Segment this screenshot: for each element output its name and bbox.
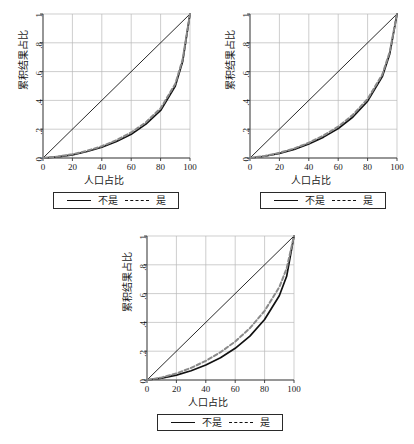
legend: 不是是: [157, 414, 283, 431]
legend-dashed-line-icon: [332, 200, 356, 201]
legend-label-solid: 不是: [202, 418, 222, 428]
plot-svg: [207, 0, 414, 222]
x-tick-label: 40: [296, 162, 322, 172]
x-tick-label: 0: [30, 162, 56, 172]
x-tick-label: 40: [89, 162, 115, 172]
x-tick-label: 40: [193, 384, 219, 394]
x-axis-title: 人口占比: [207, 172, 414, 187]
legend-dashed-line-icon: [125, 200, 149, 201]
y-tick-label: 1: [138, 235, 148, 253]
y-tick-label: .2: [138, 350, 148, 368]
y-tick-label: 1: [34, 13, 44, 31]
lorenz-panel-3: 0.2.4.6.81020406080100累积结果占比人口占比不是是: [104, 222, 311, 444]
legend-solid-line-icon: [67, 200, 91, 201]
y-tick-label: 1: [241, 13, 251, 31]
lorenz-panel-2: 0.2.4.6.81020406080100累积结果占比人口占比不是是: [207, 0, 414, 222]
legend-solid-line-icon: [171, 422, 195, 423]
y-tick-label: .4: [241, 99, 251, 117]
plot-area: 0.2.4.6.81020406080100累积结果占比人口占比不是是: [207, 0, 414, 222]
x-axis-title: 人口占比: [104, 394, 311, 409]
y-tick-label: .6: [34, 71, 44, 89]
legend: 不是是: [260, 192, 386, 209]
y-tick-label: .8: [241, 42, 251, 60]
x-tick-label: 100: [281, 384, 307, 394]
y-axis-title: 累积结果占比: [222, 5, 237, 115]
y-tick-label: .2: [241, 128, 251, 146]
x-tick-label: 80: [252, 384, 278, 394]
x-tick-label: 100: [177, 162, 203, 172]
legend-label-solid: 不是: [98, 196, 118, 206]
y-tick-label: .8: [34, 42, 44, 60]
plot-area: 0.2.4.6.81020406080100累积结果占比人口占比不是是: [0, 0, 207, 222]
x-tick-label: 60: [325, 162, 351, 172]
x-axis-title: 人口占比: [0, 172, 207, 187]
lorenz-panel-1: 0.2.4.6.81020406080100累积结果占比人口占比不是是: [0, 0, 207, 222]
legend-dashed-line-icon: [229, 422, 253, 423]
legend-label-dashed: 是: [363, 196, 373, 206]
x-tick-label: 80: [355, 162, 381, 172]
series-equality-line: [43, 14, 190, 158]
legend-label-solid: 不是: [305, 196, 325, 206]
x-tick-label: 0: [237, 162, 263, 172]
y-tick-label: .6: [241, 71, 251, 89]
x-tick-label: 0: [134, 384, 160, 394]
y-tick-label: .8: [138, 264, 148, 282]
x-tick-label: 20: [59, 162, 85, 172]
x-tick-label: 20: [266, 162, 292, 172]
x-tick-label: 20: [163, 384, 189, 394]
plot-svg: [0, 0, 207, 222]
x-tick-label: 80: [148, 162, 174, 172]
legend-label-dashed: 是: [260, 418, 270, 428]
legend-solid-line-icon: [274, 200, 298, 201]
legend: 不是是: [53, 192, 179, 209]
y-axis-title: 累积结果占比: [119, 227, 134, 337]
x-tick-label: 60: [118, 162, 144, 172]
y-tick-label: .6: [138, 293, 148, 311]
plot-area: 0.2.4.6.81020406080100累积结果占比人口占比不是是: [104, 222, 311, 444]
x-tick-label: 100: [384, 162, 410, 172]
plot-svg: [104, 222, 311, 444]
y-axis-title: 累积结果占比: [15, 5, 30, 115]
y-tick-label: .2: [34, 128, 44, 146]
y-tick-label: .4: [138, 321, 148, 339]
legend-label-dashed: 是: [156, 196, 166, 206]
x-tick-label: 60: [222, 384, 248, 394]
y-tick-label: .4: [34, 99, 44, 117]
